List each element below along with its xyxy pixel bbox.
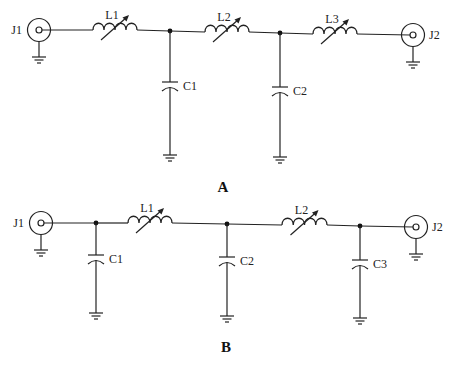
capacitor-c1: C1	[162, 29, 197, 161]
connector-label: J2	[429, 28, 440, 42]
ground-icon	[220, 316, 234, 322]
capacitor-label: C3	[373, 257, 387, 271]
inductor-label: L2	[295, 203, 308, 217]
capacitor-c2: C2	[219, 222, 254, 322]
ground-icon	[34, 250, 48, 256]
schematic-canvas: J1J2L1L2L3C1C2A J1J2L1L2C1C2C3B	[0, 0, 460, 366]
inductor-label: L1	[140, 201, 153, 215]
circuit-b: J1J2L1L2C1C2C3B	[13, 201, 442, 355]
capacitor-c1: C1	[88, 221, 123, 319]
connector-label: J1	[11, 23, 22, 37]
circuit-a: J1J2L1L2L3C1C2A	[11, 8, 439, 195]
capacitor-c2: C2	[272, 31, 307, 163]
ground-icon	[273, 157, 287, 163]
figure-caption: B	[221, 339, 231, 355]
coax-connector-j2: J2	[402, 24, 440, 69]
capacitor-label: C2	[240, 254, 254, 268]
ground-icon	[89, 313, 103, 319]
capacitor-c3: C3	[352, 224, 387, 324]
capacitor-label: C1	[109, 252, 123, 266]
coax-connector-j2: J2	[405, 216, 443, 261]
ground-icon	[406, 62, 420, 68]
inductor-label: L2	[217, 10, 230, 24]
variable-inductor-l2: L2	[205, 10, 249, 42]
variable-inductor-l2: L2	[282, 203, 327, 235]
inductor-label: L3	[325, 12, 338, 26]
variable-inductor-l1: L1	[128, 201, 172, 233]
coax-connector-j1: J1	[11, 19, 50, 64]
capacitor-label: C2	[293, 84, 307, 98]
connector-label: J1	[13, 216, 24, 230]
inductor-label: L1	[105, 8, 118, 22]
ground-icon	[32, 57, 46, 63]
variable-inductor-l1: L1	[93, 8, 137, 40]
figure-caption: A	[218, 179, 229, 195]
coax-connector-j1: J1	[13, 212, 52, 257]
capacitor-label: C1	[183, 79, 197, 93]
ground-icon	[353, 318, 367, 324]
ground-icon	[409, 254, 423, 260]
ground-icon	[163, 155, 177, 161]
variable-inductor-l3: L3	[313, 12, 357, 44]
connector-label: J2	[432, 220, 443, 234]
